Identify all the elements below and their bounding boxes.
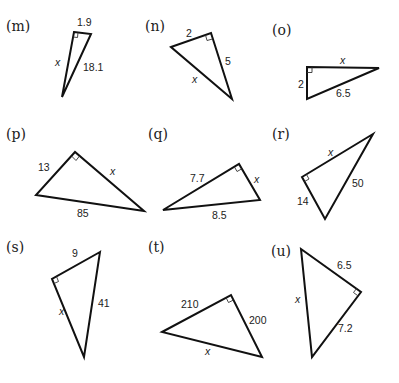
- side-label-unknown: x: [109, 165, 116, 177]
- problem-label: (o): [272, 22, 291, 38]
- problem-m: (m) 1.9 x 18.1: [6, 16, 104, 97]
- side-label-leg: 210: [181, 298, 199, 310]
- side-label-hypotenuse: 85: [77, 207, 89, 219]
- side-label-unknown: x: [339, 54, 346, 66]
- problem-q: (q) 7.7 x 8.5: [148, 126, 260, 221]
- problem-s: (s) 9 x 41: [6, 239, 110, 357]
- side-label-leg: 13: [38, 161, 50, 173]
- side-label-leg: 2: [298, 78, 304, 90]
- side-label-leg: 6.5: [337, 259, 352, 271]
- problem-n: (n) 2 5 x: [145, 18, 232, 99]
- problem-label: (s): [6, 239, 24, 255]
- right-triangle: [301, 249, 361, 357]
- side-label-hypotenuse: 8.5: [212, 209, 227, 221]
- problem-label: (p): [6, 126, 26, 142]
- side-label-leg: 7.2: [338, 322, 353, 334]
- problem-o: (o) x 2 6.5: [272, 22, 379, 99]
- problem-label: (q): [148, 126, 168, 142]
- side-label-hypotenuse: 6.5: [336, 87, 351, 99]
- side-label-hypotenuse: 41: [98, 297, 110, 309]
- problem-label: (u): [271, 243, 291, 259]
- side-label-hypotenuse: 50: [352, 177, 364, 189]
- problem-label: (n): [145, 18, 165, 34]
- side-label-unknown: x: [294, 293, 301, 305]
- right-angle-marker: [72, 156, 80, 161]
- side-label-leg: 2: [186, 27, 192, 39]
- problem-label: (r): [272, 126, 290, 142]
- side-label-unknown: x: [327, 146, 334, 158]
- right-triangle-exercise-sheet: (m) 1.9 x 18.1 (n) 2 5 x (o) x 2 6.5 (: [0, 0, 399, 383]
- right-triangle: [163, 164, 260, 210]
- problem-p: (p) 13 x 85: [6, 126, 144, 219]
- side-label-unknown: x: [204, 345, 211, 357]
- side-label-leg: 1.9: [77, 16, 92, 28]
- side-label-unknown: x: [54, 56, 61, 68]
- right-triangle: [171, 33, 232, 99]
- side-label-hypotenuse: 18.1: [83, 61, 104, 73]
- problem-t: (t) 210 200 x: [148, 239, 267, 357]
- side-label-leg: 7.7: [190, 172, 205, 184]
- triangles-canvas: (m) 1.9 x 18.1 (n) 2 5 x (o) x 2 6.5 (: [0, 0, 399, 383]
- side-label-leg: 14: [297, 195, 309, 207]
- side-label-unknown: x: [253, 173, 260, 185]
- side-label-leg: 200: [249, 314, 267, 326]
- right-triangle: [36, 152, 144, 211]
- side-label-unknown: x: [58, 305, 65, 317]
- problem-u: (u) 6.5 x 7.2: [271, 243, 361, 357]
- problem-r: (r) x 50 14: [272, 126, 373, 219]
- right-triangle: [162, 295, 262, 357]
- side-label-unknown: x: [191, 73, 198, 85]
- side-label-leg: 9: [72, 247, 78, 259]
- side-label-leg: 5: [225, 55, 231, 67]
- problem-label: (m): [6, 18, 30, 34]
- problem-label: (t): [148, 239, 165, 255]
